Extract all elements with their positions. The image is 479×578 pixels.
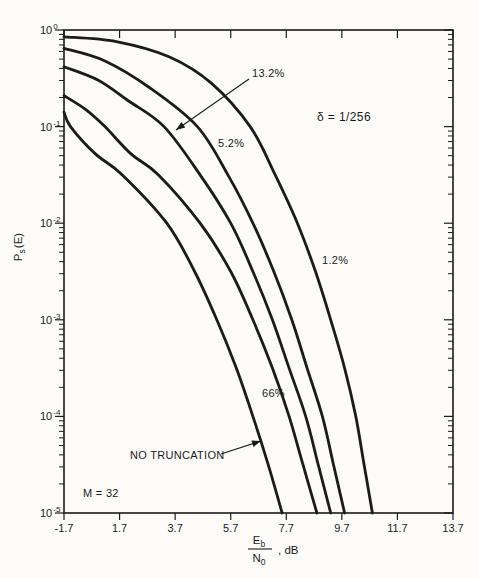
x-axis-tick-label: 7.7 <box>279 522 294 534</box>
x-axis-tick-label: 9.7 <box>334 522 349 534</box>
y-axis-tick-label: 10-5 <box>40 505 61 519</box>
y-axis-tick-label: 10-3 <box>40 312 61 326</box>
annotation-label-delta: δ = 1/256 <box>317 110 371 124</box>
y-axis-tick-label: 10-2 <box>40 215 61 229</box>
x-axis-tick-label: 3.7 <box>167 522 182 534</box>
x-axis-tick-label: -1.7 <box>55 522 74 534</box>
x-axis-tick-label: 13.7 <box>442 522 463 534</box>
error-probability-chart: -1.71.73.75.77.79.711.713.710010-110-210… <box>0 0 479 578</box>
annotation-label-66: 66% <box>262 387 285 399</box>
y-axis-tick-label: 100 <box>40 22 58 36</box>
x-axis-tick-label: 1.7 <box>112 522 127 534</box>
x-axis-title-denominator: N0 <box>252 552 265 567</box>
plot-frame <box>64 30 453 513</box>
curve-5-2 <box>64 48 345 513</box>
annotation-label-13-2: 13.2% <box>252 67 285 79</box>
annotation-label-m32: M = 32 <box>83 487 119 499</box>
annotation-label-13-2-arrow-line <box>176 79 249 130</box>
x-axis-title-units: , dB <box>278 544 299 556</box>
x-axis-tick-label: 11.7 <box>387 522 408 534</box>
annotation-label-no-truncation: NO TRUNCATION <box>130 449 225 461</box>
y-axis-title-group: Ps(E) <box>12 233 27 261</box>
y-axis-tick-label: 10-1 <box>40 119 61 133</box>
figure: -1.71.73.75.77.79.711.713.710010-110-210… <box>0 0 479 578</box>
annotation-label-1-2: 1.2% <box>322 254 348 266</box>
x-axis-tick-label: 5.7 <box>223 522 238 534</box>
curve-13-2 <box>64 67 331 513</box>
annotation-label-5-2: 5.2% <box>218 137 244 149</box>
y-axis-title: Ps(E) <box>12 233 27 261</box>
x-axis-title-numerator: Eb <box>253 534 266 549</box>
annotation-label-no-truncation-arrow-head <box>251 441 261 448</box>
annotation-label-13-2-arrow-head <box>176 122 185 130</box>
y-axis-tick-label: 10-4 <box>40 408 61 422</box>
curve-1-2 <box>64 37 372 513</box>
